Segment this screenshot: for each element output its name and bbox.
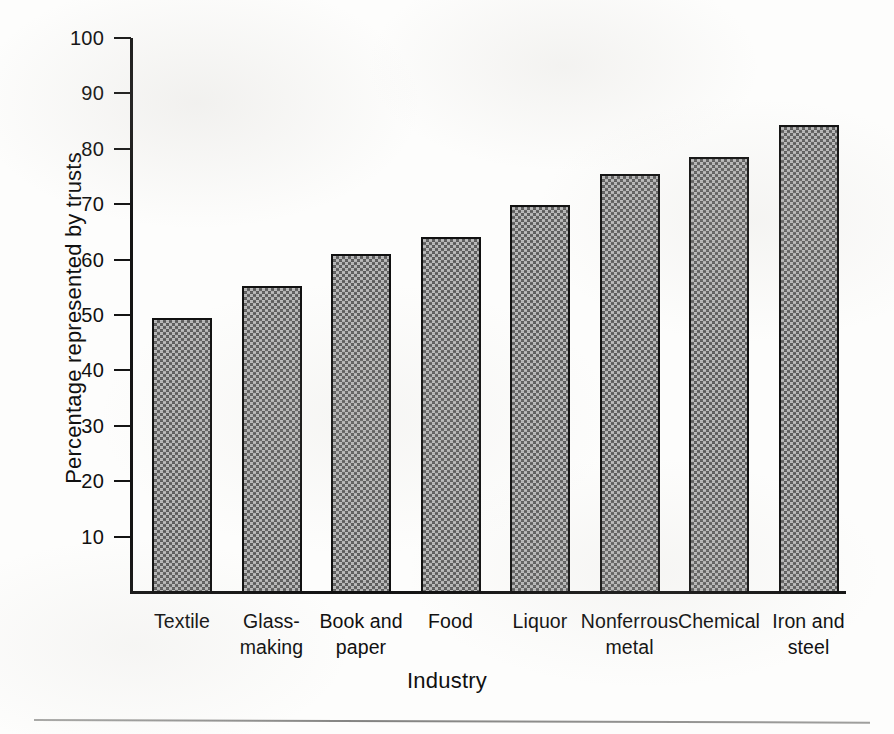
bar	[779, 125, 839, 593]
y-axis-tick	[114, 203, 131, 205]
y-axis-tick	[114, 37, 131, 39]
bar	[421, 237, 481, 593]
chart-page: 102030405060708090100 TextileGlass-makin…	[0, 0, 894, 734]
y-axis-tick	[114, 425, 131, 427]
y-axis-tick	[114, 92, 131, 94]
y-axis-tick	[114, 148, 131, 150]
x-axis-tick-label-line: paper	[299, 634, 423, 660]
x-axis-tick-label: Iron andsteel	[747, 608, 871, 660]
bar	[600, 174, 660, 593]
bar	[510, 205, 570, 593]
x-axis-title: Industry	[0, 668, 894, 694]
y-axis-tick	[114, 369, 131, 371]
y-axis-line	[130, 38, 133, 594]
bar	[689, 157, 749, 593]
x-axis-tick-label-line: steel	[747, 634, 871, 660]
bar	[242, 286, 302, 593]
y-axis-title: Percentage represented by trusts	[61, 58, 87, 578]
bar	[331, 254, 391, 593]
bar	[152, 318, 212, 593]
y-axis-tick	[114, 314, 131, 316]
plot-area: 102030405060708090100 TextileGlass-makin…	[0, 0, 894, 734]
y-axis-tick	[114, 536, 131, 538]
x-axis-tick-label-line: metal	[568, 634, 692, 660]
y-axis-tick	[114, 480, 131, 482]
x-axis-tick-label-line: Iron and	[747, 608, 871, 634]
y-axis-tick-label: 100	[52, 28, 104, 48]
y-axis-tick-label-text: 100	[56, 28, 104, 48]
y-axis-tick	[114, 259, 131, 261]
